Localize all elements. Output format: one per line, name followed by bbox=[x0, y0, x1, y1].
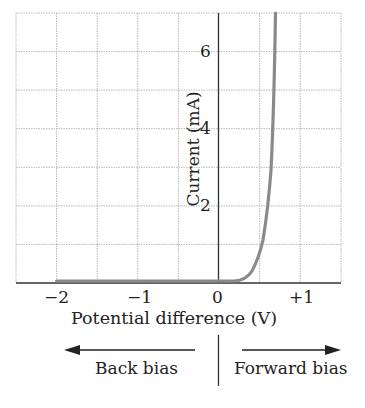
x-tick-neg1: −1 bbox=[127, 287, 152, 307]
iv-curve bbox=[57, 13, 276, 281]
back-bias-label: Back bias bbox=[95, 358, 178, 378]
back-bias-arrow bbox=[64, 345, 195, 355]
x-tick-0: 0 bbox=[212, 287, 223, 307]
forward-bias-label: Forward bias bbox=[234, 358, 348, 378]
x-tick-pos1: +1 bbox=[289, 287, 314, 307]
forward-bias-arrow bbox=[242, 345, 341, 355]
y-tick-6: 6 bbox=[200, 41, 211, 61]
y-axis-label: Current (mA) bbox=[183, 84, 203, 214]
x-tick-neg2: −2 bbox=[44, 287, 69, 307]
x-axis-label: Potential difference (V) bbox=[71, 308, 277, 328]
grid bbox=[16, 13, 341, 283]
